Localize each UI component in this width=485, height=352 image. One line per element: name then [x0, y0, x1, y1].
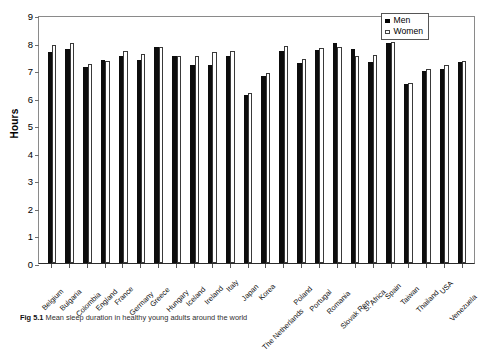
figure-number: Fig 5.1 — [20, 313, 43, 322]
y-axis-tick-label: 1 — [15, 233, 33, 243]
bar-group — [382, 17, 400, 263]
bar-women — [373, 55, 377, 263]
bar-group — [239, 17, 257, 263]
bar-group — [221, 17, 239, 263]
bar-women — [123, 51, 127, 263]
bar-women — [444, 65, 448, 263]
bar-women — [141, 54, 145, 263]
bar-women — [302, 59, 306, 263]
bar-women — [52, 45, 56, 263]
bar-group — [328, 17, 346, 263]
figure-caption-text: Mean sleep duration in healthy young adu… — [45, 313, 247, 322]
x-axis-label-cell: Belgium — [42, 267, 60, 315]
bar-women — [177, 56, 181, 263]
legend-swatch-men-icon — [385, 19, 390, 24]
bar-group — [364, 17, 382, 263]
bar-group — [417, 17, 435, 263]
bar-women — [70, 43, 74, 263]
bar-women — [408, 83, 412, 263]
x-axis-label-cell: S. Africa — [364, 267, 382, 315]
x-axis-label-cell: Ireland — [203, 267, 221, 315]
bar-women — [159, 47, 163, 263]
bar-group — [203, 17, 221, 263]
bar-group — [186, 17, 204, 263]
y-axis-tick-label: 0 — [15, 260, 33, 270]
bar-group — [293, 17, 311, 263]
bar-group — [61, 17, 79, 263]
bar-group — [114, 17, 132, 263]
bar-group — [79, 17, 97, 263]
y-axis-tick-label: 7 — [15, 67, 33, 77]
bar-women — [230, 51, 234, 263]
legend-item-men: Men — [385, 16, 423, 26]
x-axis-label-cell: Poland — [292, 267, 310, 315]
bar-women — [88, 64, 92, 263]
x-axis-label-cell: Japan — [239, 267, 257, 315]
bar-women — [426, 69, 430, 263]
bar-group — [275, 17, 293, 263]
legend-swatch-women-icon — [385, 30, 390, 35]
bar-group — [43, 17, 61, 263]
x-axis-label-cell: Venezuela — [453, 267, 471, 315]
bar-group — [310, 17, 328, 263]
y-axis-tick-label: 9 — [15, 12, 33, 22]
bar-women — [462, 61, 466, 263]
y-axis-tick-label: 8 — [15, 40, 33, 50]
y-axis-tick-label: 5 — [15, 122, 33, 132]
x-axis-label-cell: Spain — [382, 267, 400, 315]
x-axis-label-cell: England — [96, 267, 114, 315]
x-axis-label-cell: Italy — [221, 267, 239, 315]
bar-women — [248, 93, 252, 263]
x-axis-label-cell: Slovak Rep. — [346, 267, 364, 315]
x-axis-label-cell: USA — [435, 267, 453, 315]
figure-caption: Fig 5.1 Mean sleep duration in healthy y… — [20, 313, 460, 322]
x-axis-label: Venezuela — [472, 268, 485, 299]
legend-label-men: Men — [394, 16, 411, 26]
y-axis-tick-label: 2 — [15, 205, 33, 215]
plot-area: 0123456789 — [38, 16, 475, 264]
chart-legend: Men Women — [381, 13, 429, 40]
x-axis-labels: BelgiumBulgariaColombiaEnglandFranceGerm… — [38, 267, 475, 315]
bar-women — [195, 56, 199, 263]
bar-group — [435, 17, 453, 263]
x-axis-label-cell: Iceland — [185, 267, 203, 315]
bar-groups — [39, 17, 474, 263]
x-axis-label-cell: The Netherlands — [274, 267, 292, 315]
bar-group — [96, 17, 114, 263]
y-axis-tick-label: 6 — [15, 95, 33, 105]
bar-women — [212, 52, 216, 263]
bar-women — [105, 61, 109, 263]
bar-group — [150, 17, 168, 263]
x-axis-label-cell: Korea — [257, 267, 275, 315]
bar-women — [355, 56, 359, 263]
bar-women — [284, 46, 288, 263]
bar-women — [266, 73, 270, 263]
x-axis-label-text: Italy — [224, 278, 240, 294]
bar-group — [132, 17, 150, 263]
bar-group — [346, 17, 364, 263]
bar-women — [391, 42, 395, 263]
legend-label-women: Women — [394, 27, 423, 37]
bar-group — [400, 17, 418, 263]
bar-group — [453, 17, 471, 263]
x-axis-label-cell: Hungary — [167, 267, 185, 315]
x-axis-label-cell: Romania — [328, 267, 346, 315]
x-axis-label-cell: Germany — [131, 267, 149, 315]
legend-item-women: Women — [385, 27, 423, 37]
y-axis-tick-label: 4 — [15, 150, 33, 160]
x-axis-label-cell: Thailand — [417, 267, 435, 315]
y-axis-tick-label: 3 — [15, 178, 33, 188]
bar-women — [319, 48, 323, 263]
bar-group — [168, 17, 186, 263]
x-axis-label-cell: Bulgaria — [60, 267, 78, 315]
bar-group — [257, 17, 275, 263]
bar-women — [337, 47, 341, 263]
x-axis-label-cell: Colombia — [78, 267, 96, 315]
